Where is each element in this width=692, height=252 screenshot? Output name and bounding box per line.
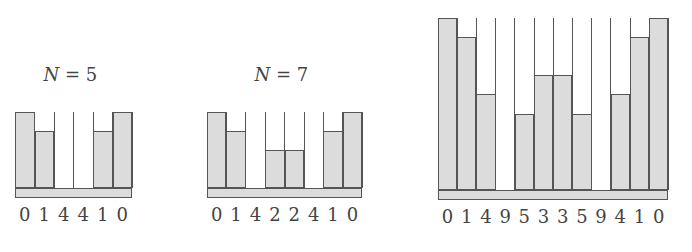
- column-label: 1: [93, 204, 113, 225]
- divider-line: [207, 112, 208, 188]
- column-label: 4: [611, 206, 630, 227]
- divider-line: [323, 112, 324, 188]
- divider-line: [245, 112, 246, 188]
- column-fill: [534, 75, 553, 190]
- column-label: 2: [285, 204, 304, 225]
- divider-line: [668, 18, 669, 190]
- column-label: 4: [74, 204, 94, 225]
- column-label: 0: [649, 206, 668, 227]
- column: [323, 112, 342, 188]
- column: [649, 18, 668, 190]
- column-label: 0: [15, 204, 35, 225]
- divider-line: [34, 112, 35, 188]
- diagram-title: N = 7: [255, 64, 309, 85]
- divider-line: [610, 18, 611, 190]
- divider-line: [649, 18, 650, 190]
- column-fill: [515, 114, 534, 190]
- column: [496, 18, 515, 190]
- divider-line: [630, 18, 631, 190]
- divider-line: [553, 18, 554, 190]
- column-fill: [553, 75, 572, 190]
- divider-line: [284, 112, 285, 188]
- column-label: 1: [35, 204, 55, 225]
- divider-line: [534, 18, 535, 190]
- column-label: 1: [323, 204, 342, 225]
- column-label: 4: [246, 204, 265, 225]
- column-fill: [630, 37, 649, 190]
- bucket-diagram-2: 014953359410: [438, 18, 668, 200]
- divider-line: [73, 112, 74, 188]
- column: [630, 18, 649, 190]
- column: [534, 18, 553, 190]
- column-label: 9: [592, 206, 611, 227]
- divider-line: [572, 18, 573, 190]
- column-label: 1: [457, 206, 476, 227]
- column-fill: [457, 37, 476, 190]
- divider-line: [457, 18, 458, 190]
- column: [207, 112, 226, 188]
- column: [93, 112, 113, 188]
- divider-line: [438, 18, 439, 190]
- base-bar: [15, 188, 132, 198]
- column-fill: [285, 150, 304, 188]
- column: [592, 18, 611, 190]
- column-fill: [611, 94, 630, 190]
- column-fill: [476, 94, 495, 190]
- column-fill: [343, 112, 362, 188]
- column-labels: 014410: [15, 204, 132, 225]
- bucket-diagram-1: N = 701422410: [207, 112, 362, 198]
- column-fill: [35, 131, 55, 188]
- divider-line: [304, 112, 305, 188]
- column: [15, 112, 35, 188]
- column: [246, 112, 265, 188]
- column-label: 0: [113, 204, 133, 225]
- bucket-diagram-0: N = 5014410: [15, 112, 132, 198]
- column: [54, 112, 74, 188]
- column-fill: [15, 112, 35, 188]
- column-label: 3: [534, 206, 553, 227]
- column: [515, 18, 534, 190]
- column: [572, 18, 591, 190]
- column: [553, 18, 572, 190]
- divider-line: [514, 18, 515, 190]
- divider-line: [132, 112, 133, 188]
- column-label: 0: [438, 206, 457, 227]
- column-label: 4: [54, 204, 74, 225]
- column-fill: [113, 112, 133, 188]
- column-label: 9: [496, 206, 515, 227]
- column-label: 0: [207, 204, 226, 225]
- divider-line: [495, 18, 496, 190]
- divider-line: [15, 112, 16, 188]
- divider-line: [476, 18, 477, 190]
- column-label: 1: [226, 204, 245, 225]
- column-fill: [572, 114, 591, 190]
- divider-line: [93, 112, 94, 188]
- column-fill: [265, 150, 284, 188]
- column: [226, 112, 245, 188]
- column: [113, 112, 133, 188]
- column-fill: [438, 18, 457, 190]
- base-bar: [207, 188, 362, 198]
- column-label: 5: [515, 206, 534, 227]
- divider-line: [265, 112, 266, 188]
- column-fill: [207, 112, 226, 188]
- divider-line: [226, 112, 227, 188]
- column-fill: [93, 131, 113, 188]
- column-labels: 01422410: [207, 204, 362, 225]
- diagram-title: N = 5: [44, 64, 98, 85]
- column: [285, 112, 304, 188]
- column-labels: 014953359410: [438, 206, 668, 227]
- divider-line: [362, 112, 363, 188]
- column: [343, 112, 362, 188]
- divider-line: [112, 112, 113, 188]
- column: [476, 18, 495, 190]
- column-fill: [226, 131, 245, 188]
- column-fill: [649, 18, 668, 190]
- base-bar: [438, 190, 668, 200]
- column: [35, 112, 55, 188]
- column-label: 4: [476, 206, 495, 227]
- column: [265, 112, 284, 188]
- column-fill: [323, 131, 342, 188]
- divider-line: [342, 112, 343, 188]
- column-label: 4: [304, 204, 323, 225]
